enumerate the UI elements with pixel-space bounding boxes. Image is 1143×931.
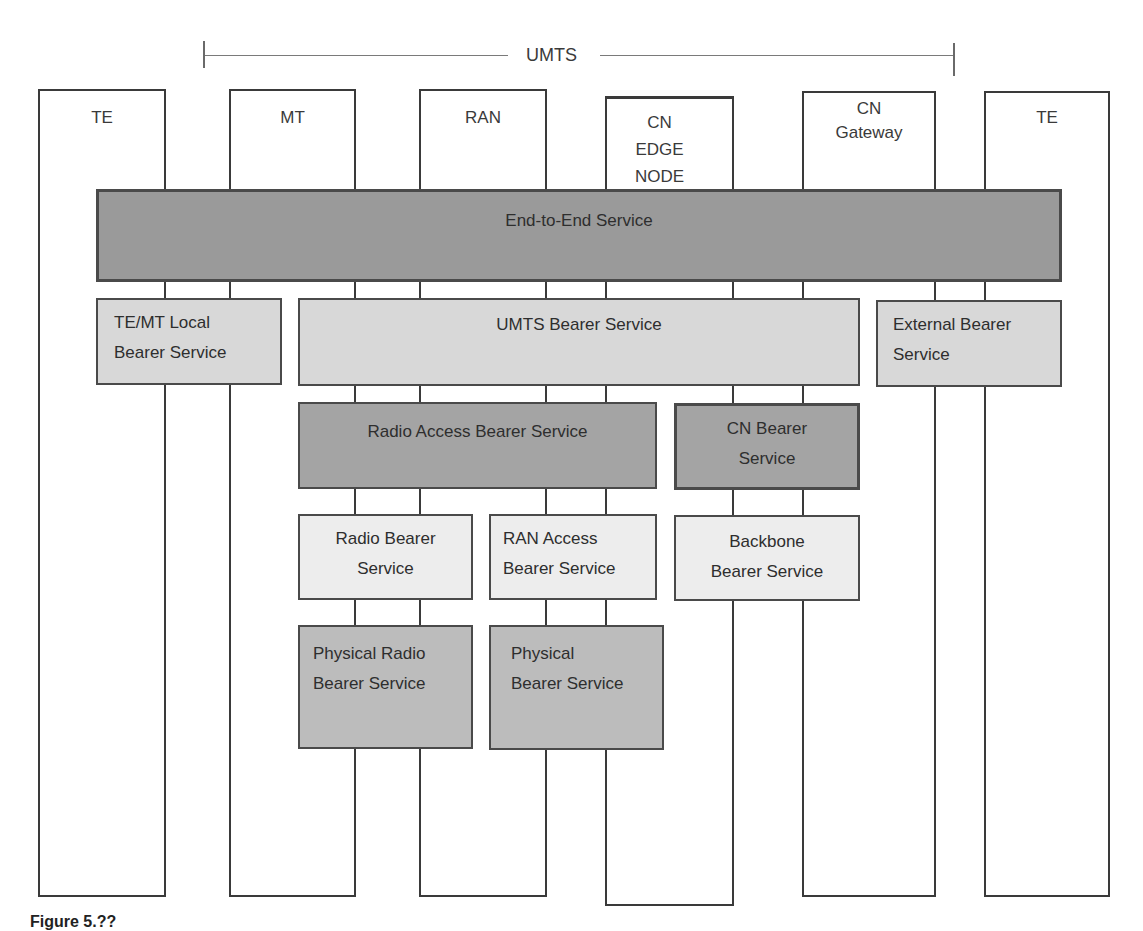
te-mt-local-bearer-service-label: TE/MT Local Bearer Service [114, 308, 226, 368]
physical-radio-bearer-service: Physical Radio Bearer Service [298, 625, 473, 749]
ran-access-bearer-service: RAN Access Bearer Service [489, 514, 657, 600]
backbone-bearer-service: Backbone Bearer Service [674, 515, 860, 601]
physical-radio-bearer-service-label: Physical Radio Bearer Service [313, 639, 425, 699]
umts-bracket-label: UMTS [526, 45, 577, 66]
radio-access-bearer-service-label: Radio Access Bearer Service [367, 417, 587, 447]
column-label-cn-gateway: CN Gateway [804, 97, 934, 145]
te-mt-local-bearer-service: TE/MT Local Bearer Service [96, 298, 282, 385]
end-to-end-service-label: End-to-End Service [505, 202, 652, 236]
radio-access-bearer-service: Radio Access Bearer Service [298, 402, 657, 489]
backbone-bearer-service-label: Backbone Bearer Service [711, 527, 823, 587]
physical-bearer-service: Physical Bearer Service [489, 625, 664, 750]
umts-bearer-service-label: UMTS Bearer Service [496, 310, 661, 340]
umts-bracket-right-tick [953, 43, 955, 76]
figure-caption: Figure 5.?? [30, 913, 116, 931]
umts-bracket-line-right [600, 55, 954, 56]
cn-bearer-service-label: CN Bearer Service [727, 414, 807, 474]
column-label-ran: RAN [421, 105, 545, 131]
column-label-te-right: TE [986, 105, 1108, 131]
cn-bearer-service: CN Bearer Service [674, 403, 860, 490]
radio-bearer-service-label: Radio Bearer Service [335, 524, 435, 584]
ran-access-bearer-service-label: RAN Access Bearer Service [503, 524, 615, 584]
radio-bearer-service: Radio Bearer Service [298, 514, 473, 600]
umts-bracket-line-left [205, 55, 508, 56]
end-to-end-service: End-to-End Service [96, 189, 1062, 282]
external-bearer-service-label: External Bearer Service [893, 310, 1011, 370]
physical-bearer-service-label: Physical Bearer Service [511, 639, 623, 699]
umts-bearer-service: UMTS Bearer Service [298, 298, 860, 386]
external-bearer-service: External Bearer Service [876, 300, 1062, 387]
column-label-te-left: TE [40, 105, 164, 131]
column-label-mt: MT [231, 105, 354, 131]
column-label-cn-edge-node: CN EDGE NODE [587, 109, 732, 190]
